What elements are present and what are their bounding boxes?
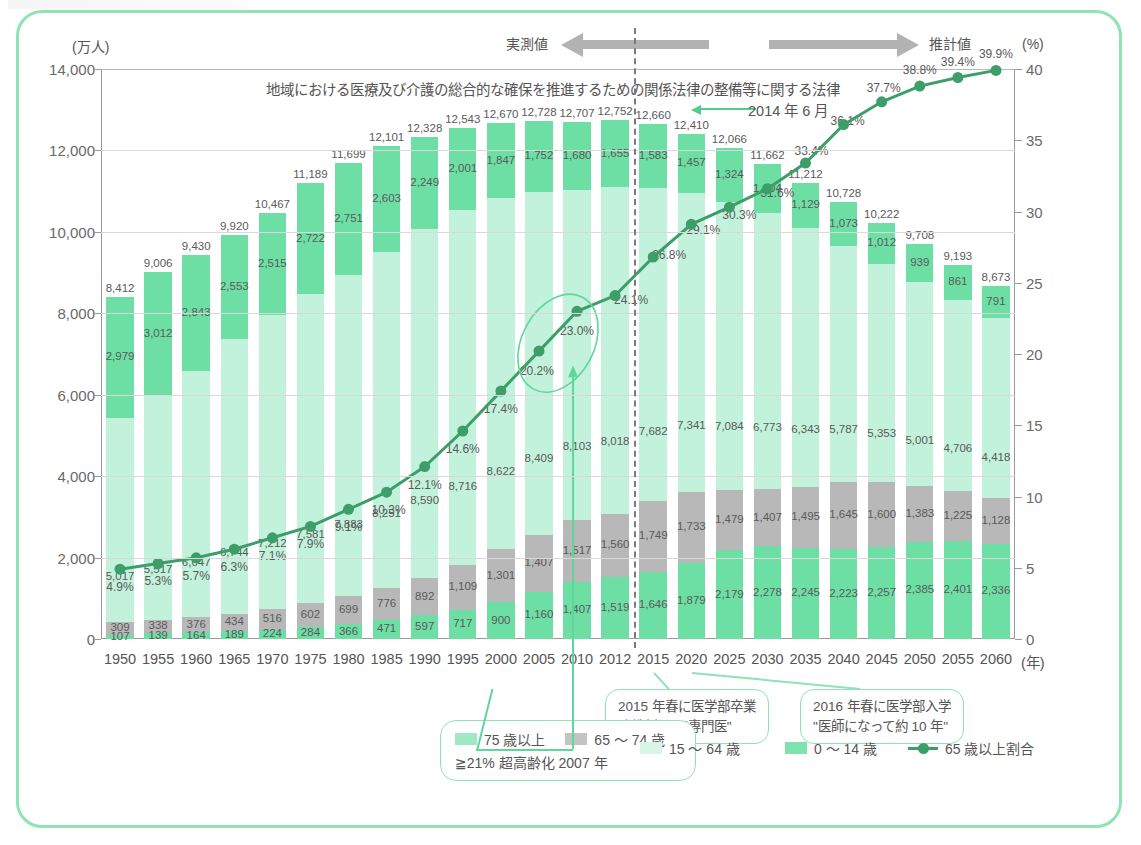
ratio-point[interactable]	[991, 65, 1002, 76]
projection-arrow-bar	[769, 40, 897, 49]
ratio-point[interactable]	[952, 72, 963, 83]
ratio-line	[120, 70, 996, 569]
gridline	[101, 232, 1015, 233]
y-tick-mark-left	[94, 395, 101, 396]
ratio-point[interactable]	[419, 461, 430, 472]
highlight-ellipse	[502, 280, 614, 406]
legend-item-15-64: 15 ～ 64 歳	[640, 738, 740, 758]
y-tick-mark-right	[1015, 212, 1022, 213]
y-tick-mark-left	[94, 150, 101, 151]
callout-2016-line1: 2016 年春に医学部入学	[813, 697, 951, 717]
plot-area: 8,4122,9795,0173091079,0063,0125,5173381…	[101, 69, 1015, 639]
swatch-75plus-icon	[455, 733, 477, 745]
y-tick-mark-left	[94, 639, 101, 640]
ratio-point[interactable]	[381, 487, 392, 498]
ratio-point[interactable]	[572, 306, 583, 317]
x-tick-label: 1950	[104, 651, 136, 667]
gridline	[101, 558, 1015, 559]
legend-label-15-64: 15 ～ 64 歳	[669, 738, 740, 758]
x-tick-label: 2015	[637, 651, 669, 667]
legend-item-75plus: 75 歳以上	[455, 729, 545, 749]
x-tick-label: 2045	[866, 651, 898, 667]
x-tick-label: 1980	[332, 651, 364, 667]
y-tick-mark-right	[1015, 354, 1022, 355]
ratio-point[interactable]	[876, 96, 887, 107]
x-tick-label: 2005	[523, 651, 555, 667]
y-tick-mark-right	[1015, 69, 1022, 70]
y-tick-label-left: 2,000	[5, 549, 95, 566]
line-marker-icon	[908, 742, 938, 754]
law-date: 2014 年 6 月	[748, 99, 828, 120]
x-tick-label: 2060	[980, 651, 1012, 667]
y-tick-mark-right	[1015, 568, 1022, 569]
swatch-0-14-icon	[785, 742, 807, 754]
ratio-point[interactable]	[610, 290, 621, 301]
x-tick-label: 2020	[675, 651, 707, 667]
ratio-value-label: 39.4%	[941, 55, 975, 69]
y-tick-mark-left	[94, 232, 101, 233]
y-tick-label-right: 0	[1026, 631, 1086, 648]
highlight-leader-extension-h	[476, 749, 573, 751]
x-tick-label: 1960	[180, 651, 212, 667]
ratio-point[interactable]	[686, 219, 697, 230]
highlight-leader-extension	[572, 629, 574, 749]
x-tick-label: 2030	[751, 651, 783, 667]
ratio-point[interactable]	[229, 544, 240, 555]
ratio-point[interactable]	[115, 564, 126, 575]
y-tick-mark-left	[94, 476, 101, 477]
actual-arrow-bar	[581, 40, 709, 49]
y-tick-label-right: 5	[1026, 559, 1086, 576]
ratio-point[interactable]	[153, 558, 164, 569]
callout-2015-line1: 2015 年春に医学部卒業	[618, 697, 756, 717]
period-band: 実測値 推計値	[101, 28, 1015, 58]
legend-label-0-14: 0 ～ 14 歳	[814, 738, 877, 758]
x-tick-label: 2000	[485, 651, 517, 667]
y-tick-label-left: 6,000	[5, 386, 95, 403]
y-tick-label-right: 40	[1026, 61, 1086, 78]
swatch-15-64-icon	[640, 742, 662, 754]
x-tick-label: 1995	[447, 651, 479, 667]
actual-projection-divider	[634, 28, 636, 648]
x-tick-label: 2040	[827, 651, 859, 667]
y-tick-label-left: 8,000	[5, 305, 95, 322]
y-tick-label-left: 0	[5, 631, 95, 648]
ratio-point[interactable]	[762, 183, 773, 194]
page-top-strip	[0, 0, 1141, 10]
ratio-value-label: 39.9%	[979, 47, 1013, 61]
y-tick-label-left: 12,000	[5, 142, 95, 159]
y-tick-label-left: 4,000	[5, 468, 95, 485]
x-tick-label: 1965	[218, 651, 250, 667]
callout-2016: 2016 年春に医学部入学 "医師になって約 10 年"	[800, 689, 964, 744]
page-top-ghost-text	[8, 0, 248, 9]
ratio-point[interactable]	[838, 119, 849, 130]
y-axis-unit-right: (%)	[1022, 36, 1044, 52]
x-tick-label: 2012	[599, 651, 631, 667]
x-tick-label: 2050	[904, 651, 936, 667]
ratio-point[interactable]	[267, 532, 278, 543]
ratio-point[interactable]	[648, 252, 659, 263]
ratio-line-layer	[101, 69, 1015, 639]
ratio-point[interactable]	[914, 81, 925, 92]
legend-label-75plus: 75 歳以上	[484, 729, 545, 749]
ratio-point[interactable]	[457, 426, 468, 437]
y-tick-label-right: 20	[1026, 346, 1086, 363]
y-tick-mark-right	[1015, 497, 1022, 498]
ratio-point[interactable]	[724, 202, 735, 213]
ratio-point[interactable]	[305, 521, 316, 532]
y-tick-label-right: 10	[1026, 488, 1086, 505]
y-tick-label-right: 30	[1026, 203, 1086, 220]
x-tick-label: 1975	[294, 651, 326, 667]
x-tick-label: 1970	[256, 651, 288, 667]
ratio-point[interactable]	[800, 158, 811, 169]
legend-label-ratio: 65 歳以上割合	[945, 738, 1034, 758]
y-tick-mark-left	[94, 69, 101, 70]
swatch-65-74-icon	[565, 733, 587, 745]
legend-item-0-14: 0 ～ 14 歳	[785, 738, 877, 758]
ratio-point[interactable]	[343, 504, 354, 515]
legend-item-ratio: 65 歳以上割合	[908, 738, 1034, 758]
y-tick-label-right: 35	[1026, 132, 1086, 149]
law-title: 地域における医療及び介護の総合的な確保を推進するための関係法律の整備等に関する法…	[266, 78, 840, 99]
gridline	[101, 150, 1015, 151]
ratio-point[interactable]	[534, 346, 545, 357]
y-tick-label-right: 25	[1026, 274, 1086, 291]
